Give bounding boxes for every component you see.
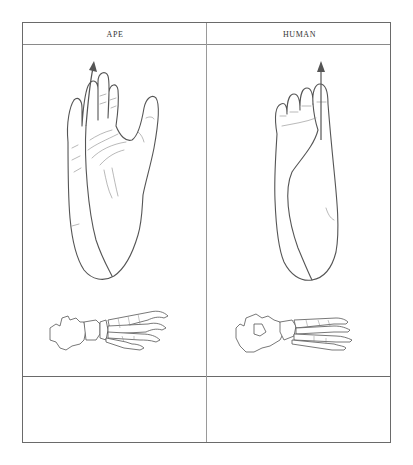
ape-foot-sole <box>67 73 158 280</box>
illustrations <box>0 0 413 465</box>
human-foot-sole <box>275 84 338 280</box>
ape-axis-arrow-icon <box>86 61 97 126</box>
ape-foot-skeleton <box>50 311 168 350</box>
human-foot-skeleton <box>236 314 352 352</box>
human-axis-arrow-icon <box>317 61 325 140</box>
